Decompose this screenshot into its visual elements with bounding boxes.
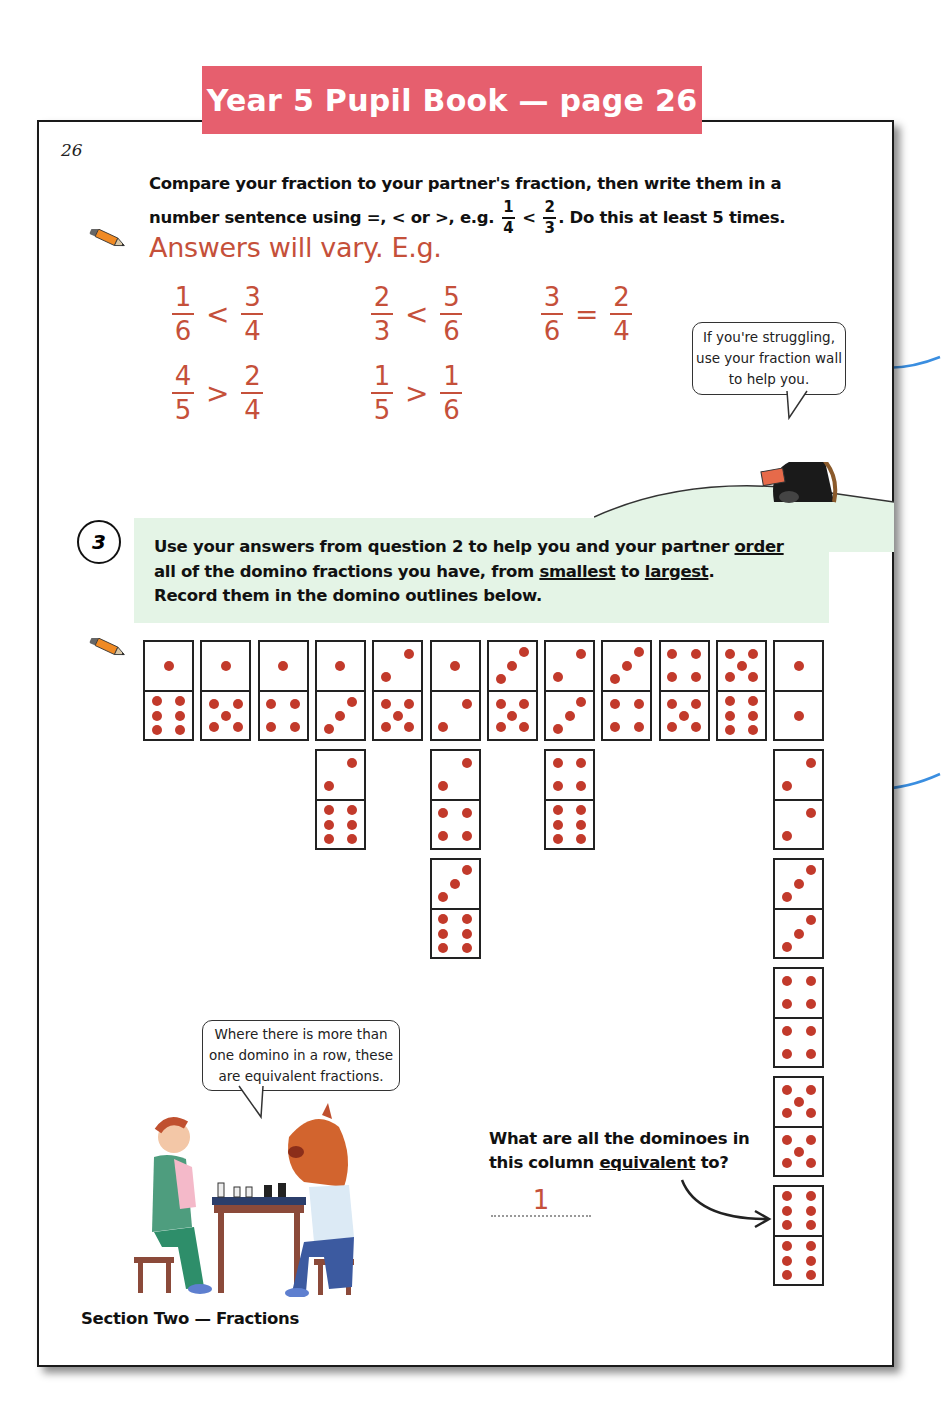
domino-pip	[507, 711, 517, 721]
domino-denominator	[546, 690, 593, 739]
domino-numerator	[432, 860, 479, 908]
domino-pip	[576, 758, 586, 768]
banner-title: Year 5 Pupil Book — page 26	[207, 83, 698, 118]
domino-pip	[794, 1097, 804, 1107]
domino-3-over-5	[487, 640, 538, 741]
domino-pip	[782, 942, 792, 952]
domino-pip	[782, 1206, 792, 1216]
domino-1-over-3	[315, 640, 366, 741]
answer-sentence: 15 > 16	[371, 363, 462, 423]
domino-numerator	[775, 642, 822, 690]
domino-pip	[324, 834, 334, 844]
domino-denominator	[603, 690, 650, 739]
domino-pip	[175, 711, 185, 721]
domino-pip	[438, 808, 448, 818]
domino-pip	[553, 724, 563, 734]
domino-pip	[782, 781, 792, 791]
domino-denominator	[775, 908, 822, 957]
domino-denominator	[775, 1126, 822, 1175]
answer-sentence: 16 < 34	[172, 284, 263, 344]
domino-pip	[404, 649, 414, 659]
answer-sentence: 36 = 24	[541, 284, 632, 344]
equivalent-answer-field[interactable]: 1	[491, 1187, 591, 1217]
domino-pip	[324, 724, 334, 734]
domino-pip	[438, 831, 448, 841]
domino-pip	[553, 758, 563, 768]
domino-pip	[794, 929, 804, 939]
domino-pip	[450, 661, 460, 671]
chess-players-illustration	[114, 1097, 374, 1297]
domino-numerator	[775, 751, 822, 799]
domino-denominator	[317, 799, 364, 848]
domino-pip	[462, 758, 472, 768]
domino-numerator	[432, 642, 479, 690]
instruction-line-2: number sentence using =, < or >, e.g. 14…	[149, 200, 839, 236]
example-operator: <	[522, 208, 536, 227]
domino-pip	[782, 831, 792, 841]
domino-1-over-6	[143, 640, 194, 741]
domino-pip	[324, 781, 334, 791]
domino-pip	[233, 699, 243, 709]
domino-pip	[553, 805, 563, 815]
domino-5-over-5	[773, 1076, 824, 1177]
domino-pip	[725, 711, 735, 721]
domino-pip	[553, 781, 563, 791]
example-fraction-right: 23	[543, 200, 556, 236]
domino-pip	[782, 1191, 792, 1201]
domino-pip	[634, 699, 644, 709]
domino-pip	[782, 1108, 792, 1118]
domino-3-over-3	[773, 858, 824, 959]
domino-pip	[438, 929, 448, 939]
domino-4-over-6	[544, 749, 595, 850]
domino-denominator	[775, 1235, 822, 1284]
domino-1-over-5	[200, 640, 251, 741]
domino-pip	[806, 1158, 816, 1168]
domino-pip	[610, 699, 620, 709]
domino-pip	[691, 699, 701, 709]
domino-pip	[438, 914, 448, 924]
domino-denominator	[202, 690, 249, 739]
domino-pip	[806, 915, 816, 925]
domino-pip	[347, 805, 357, 815]
domino-pip	[667, 649, 677, 659]
question3-instruction: Use your answers from question 2 to help…	[154, 535, 784, 609]
page-number: 26	[61, 140, 83, 160]
domino-denominator	[317, 690, 364, 739]
domino-denominator	[718, 690, 765, 739]
domino-pip	[152, 711, 162, 721]
domino-pip	[748, 696, 758, 706]
domino-4-over-5	[659, 640, 710, 741]
domino-pip	[782, 1026, 792, 1036]
instruction-text: number sentence using =, < or >, e.g.	[149, 208, 494, 227]
domino-pip	[519, 647, 529, 657]
section-footer: Section Two — Fractions	[81, 1309, 299, 1328]
domino-2-over-3	[544, 640, 595, 741]
domino-pip	[610, 722, 620, 732]
domino-pip	[576, 781, 586, 791]
domino-pip	[748, 711, 758, 721]
domino-pip	[610, 674, 620, 684]
domino-4-over-4	[773, 967, 824, 1068]
pencil-icon	[83, 638, 133, 656]
domino-pip	[806, 1206, 816, 1216]
domino-pip	[806, 808, 816, 818]
domino-numerator	[546, 751, 593, 799]
domino-pip	[381, 722, 391, 732]
domino-pip	[438, 943, 448, 953]
domino-pip	[438, 781, 448, 791]
domino-pip	[393, 711, 403, 721]
domino-pip	[634, 722, 644, 732]
domino-pip	[347, 758, 357, 768]
example-fraction-left: 14	[502, 200, 515, 236]
domino-pip	[462, 831, 472, 841]
domino-denominator	[432, 799, 479, 848]
domino-denominator	[661, 690, 708, 739]
domino-pip	[496, 674, 506, 684]
domino-pip	[782, 1270, 792, 1280]
domino-pip	[667, 699, 677, 709]
domino-pip	[725, 725, 735, 735]
domino-pip	[576, 805, 586, 815]
domino-pip	[782, 976, 792, 986]
domino-denominator	[432, 908, 479, 957]
domino-pip	[175, 725, 185, 735]
